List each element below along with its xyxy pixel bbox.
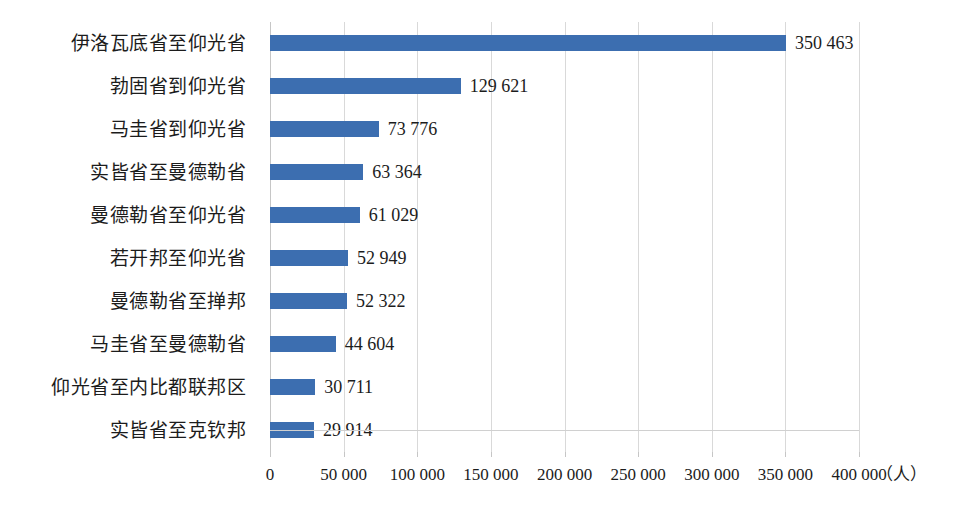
bar[interactable]	[270, 35, 786, 51]
x-axis-tick-mark	[344, 452, 345, 457]
x-axis-tick-label: 300 000	[684, 462, 739, 488]
x-axis-tick-mark	[270, 452, 271, 457]
category-label: 仰光省至内比都联邦区	[0, 366, 258, 409]
bar-value-label: 73 776	[379, 121, 438, 137]
bar[interactable]	[270, 121, 379, 137]
x-axis-tick-mark	[417, 452, 418, 457]
bar[interactable]	[270, 207, 360, 223]
bar-value-label: 350 463	[786, 35, 854, 51]
category-label: 马圭省至曼德勒省	[0, 323, 258, 366]
category-label: 曼德勒省至仰光省	[0, 194, 258, 237]
bar-value-label: 52 949	[348, 250, 407, 266]
x-axis-tick-label: 200 000	[537, 462, 592, 488]
bar-row: 129 621	[270, 65, 859, 108]
bar[interactable]	[270, 164, 363, 180]
x-axis-tick-label: 350 000	[758, 462, 813, 488]
x-axis-tick-mark	[565, 452, 566, 457]
bar-value-label: 63 364	[363, 164, 422, 180]
category-label: 实皆省至克钦邦	[0, 409, 258, 452]
category-label: 伊洛瓦底省至仰光省	[0, 22, 258, 65]
bar-row: 61 029	[270, 194, 859, 237]
x-axis-unit-label: （人）	[876, 462, 927, 488]
bar-row: 350 463	[270, 22, 859, 65]
bar[interactable]	[270, 293, 347, 309]
x-axis-tick-labels: 050 000100 000150 000200 000250 000300 0…	[270, 462, 859, 488]
bar-row: 52 949	[270, 237, 859, 280]
x-axis-tick-label: 100 000	[390, 462, 445, 488]
x-axis-tick-label: 250 000	[611, 462, 666, 488]
x-axis-tick-marks	[270, 452, 859, 458]
x-axis-tick-label: 150 000	[463, 462, 518, 488]
x-axis-tick-label: 0	[266, 462, 275, 488]
x-axis-tick-mark	[491, 452, 492, 457]
bar-row: 73 776	[270, 108, 859, 151]
gridline	[859, 22, 860, 452]
bar-value-label: 44 604	[336, 336, 395, 352]
x-axis-tick-mark	[712, 452, 713, 457]
bar[interactable]	[270, 336, 336, 352]
category-axis-labels: 伊洛瓦底省至仰光省勃固省到仰光省马圭省到仰光省实皆省至曼德勒省曼德勒省至仰光省若…	[0, 22, 258, 452]
x-axis-tick-mark	[638, 452, 639, 457]
x-axis-tick-label: 50 000	[320, 462, 367, 488]
bar[interactable]	[270, 250, 348, 266]
bar-series: 350 463129 62173 77663 36461 02952 94952…	[270, 22, 859, 452]
bar[interactable]	[270, 78, 461, 94]
x-axis-tick-mark	[785, 452, 786, 457]
bar-row: 44 604	[270, 323, 859, 366]
x-axis-tick-mark	[859, 452, 860, 457]
category-label: 勃固省到仰光省	[0, 65, 258, 108]
category-label: 曼德勒省至掸邦	[0, 280, 258, 323]
bar-value-label: 61 029	[360, 207, 419, 223]
bar-value-label: 129 621	[461, 78, 529, 94]
x-axis-line	[270, 430, 859, 431]
bar-row: 52 322	[270, 280, 859, 323]
bar-row: 63 364	[270, 151, 859, 194]
category-label: 实皆省至曼德勒省	[0, 151, 258, 194]
category-label: 马圭省到仰光省	[0, 108, 258, 151]
bar-row: 30 711	[270, 366, 859, 409]
bar-value-label: 52 322	[347, 293, 406, 309]
plot-area: 350 463129 62173 77663 36461 02952 94952…	[270, 22, 859, 452]
category-label: 若开邦至仰光省	[0, 237, 258, 280]
bar-value-label: 30 711	[315, 379, 373, 395]
bar[interactable]	[270, 379, 315, 395]
bar-chart: 伊洛瓦底省至仰光省勃固省到仰光省马圭省到仰光省实皆省至曼德勒省曼德勒省至仰光省若…	[0, 0, 966, 513]
